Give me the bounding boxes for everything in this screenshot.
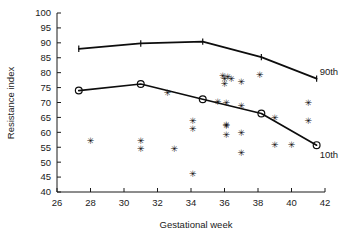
- scatter-point: ✳: [271, 113, 279, 123]
- y-axis: 404550556065707580859095100: [35, 7, 61, 197]
- series-layer: [75, 38, 320, 148]
- x-axis: 262830323436384042: [52, 188, 331, 208]
- scatter-point: ✳: [214, 97, 222, 107]
- x-tick-label: 36: [219, 197, 230, 208]
- scatter-point: ✳: [304, 116, 312, 126]
- y-tick-label: 55: [40, 142, 51, 153]
- x-tick-label: 28: [85, 197, 96, 208]
- x-tick-label: 32: [152, 197, 163, 208]
- scatter-point: ✳: [222, 130, 230, 140]
- x-tick-label: 34: [186, 197, 197, 208]
- scatter-point: ✳: [237, 101, 245, 111]
- x-tick-label: 26: [52, 197, 63, 208]
- x-tick-label: 40: [286, 197, 297, 208]
- y-tick-label: 60: [40, 127, 51, 138]
- chart-container: 404550556065707580859095100 262830323436…: [0, 0, 341, 232]
- y-tick-label: 80: [40, 67, 51, 78]
- scatter-point: ✳: [256, 70, 264, 80]
- scatter-point: ✳: [164, 88, 172, 98]
- y-tick-label: 65: [40, 112, 51, 123]
- scatter-point: ✳: [304, 98, 312, 108]
- resistance-index-scatter-chart: 404550556065707580859095100 262830323436…: [0, 0, 341, 232]
- series-line-10th: [79, 84, 317, 145]
- scatter-point: ✳: [87, 136, 95, 146]
- y-tick-label: 95: [40, 22, 51, 33]
- scatter-point: ✳: [222, 98, 230, 108]
- scatter-point: ✳: [237, 128, 245, 138]
- x-tick-label: 30: [119, 197, 130, 208]
- scatter-point: ✳: [221, 79, 229, 89]
- x-tick-label: 42: [320, 197, 331, 208]
- series-label-10th: 10th: [320, 149, 339, 160]
- y-tick-label: 90: [40, 37, 51, 48]
- x-axis-title: Gestational week: [160, 219, 233, 230]
- scatter-point: ✳: [271, 140, 279, 150]
- scatter-point: ✳: [170, 144, 178, 154]
- series-line-90th: [79, 42, 317, 79]
- x-axis-ticks: 262830323436384042: [52, 188, 331, 208]
- scatter-point: ✳: [227, 74, 235, 84]
- y-tick-label: 100: [35, 7, 51, 18]
- y-tick-label: 70: [40, 97, 51, 108]
- y-tick-label: 50: [40, 157, 51, 168]
- scatter-point: ✳: [288, 140, 296, 150]
- series-label-90th: 90th: [320, 66, 339, 77]
- x-tick-label: 38: [253, 197, 264, 208]
- scatter-point: ✳: [237, 77, 245, 87]
- y-tick-label: 45: [40, 171, 51, 182]
- y-tick-label: 85: [40, 52, 51, 63]
- scatter-point: ✳: [237, 148, 245, 158]
- scatter-point: ✳: [189, 169, 197, 179]
- scatter-point: ✳: [189, 124, 197, 134]
- y-tick-label: 75: [40, 82, 51, 93]
- series-labels: 90th10th: [320, 66, 339, 161]
- y-tick-label: 40: [40, 186, 51, 197]
- scatter-point: ✳: [137, 144, 145, 154]
- y-axis-title: Resistance index: [5, 67, 16, 140]
